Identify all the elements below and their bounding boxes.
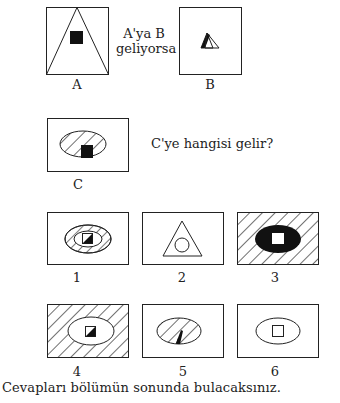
option-6-label: 6 — [255, 364, 295, 379]
option-4[interactable] — [47, 304, 129, 358]
option-3[interactable] — [237, 212, 319, 265]
figure-b — [179, 7, 242, 75]
option-2-label: 2 — [162, 270, 202, 285]
option-5-label: 5 — [163, 364, 203, 379]
prompt-line-2: geliyorsa — [116, 41, 172, 56]
option-2[interactable] — [142, 212, 224, 265]
option-3-label: 3 — [255, 270, 295, 285]
option-1[interactable] — [47, 212, 129, 265]
prompt-line-1: A'ya B — [116, 26, 172, 41]
figure-a — [46, 7, 109, 75]
figure-b-label: B — [190, 77, 230, 92]
option-1-label: 1 — [57, 270, 97, 285]
figure-c — [47, 118, 129, 172]
question-text: C'ye hangisi gelir? — [151, 136, 273, 151]
option-6[interactable] — [237, 304, 319, 358]
figure-a-label: A — [57, 77, 97, 92]
option-5[interactable] — [142, 304, 224, 358]
prompt-text: A'ya B geliyorsa — [116, 26, 172, 56]
figure-c-label: C — [58, 177, 98, 192]
footer-note: Cevapları bölümün sonunda bulacaksınız. — [2, 380, 281, 395]
option-4-label: 4 — [57, 364, 97, 379]
